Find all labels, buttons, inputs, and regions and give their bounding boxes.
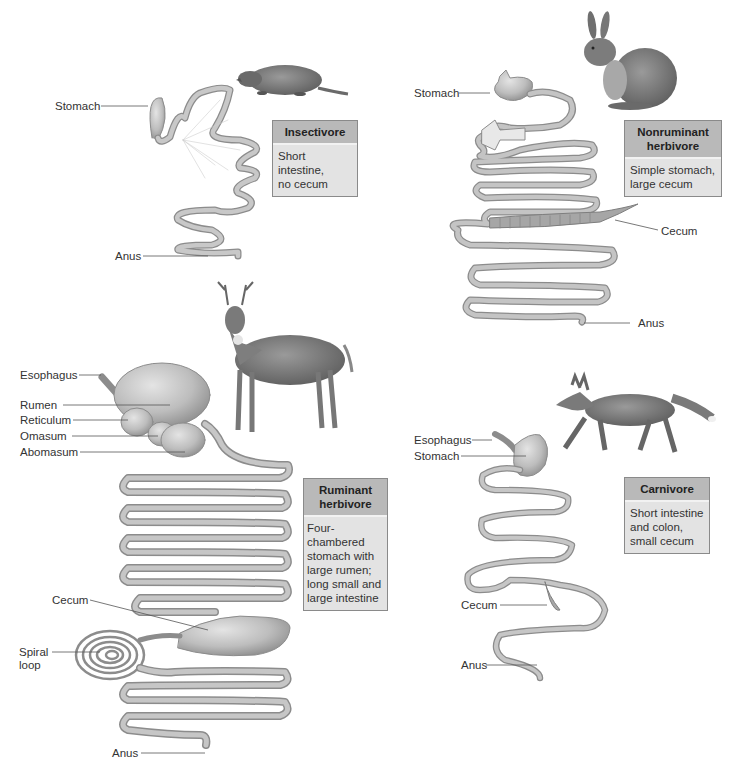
box-line: small cecum xyxy=(630,534,704,548)
label-stomach: Stomach xyxy=(55,100,100,113)
box-line: and colon, xyxy=(630,520,704,534)
box-title: Nonruminant herbivore xyxy=(625,121,721,159)
box-line: large rumen; xyxy=(307,563,385,577)
label-anus: Anus xyxy=(638,317,664,330)
label-anus: Anus xyxy=(115,250,141,263)
box-title: Carnivore xyxy=(625,478,709,502)
box-line: Short intestine xyxy=(630,506,704,520)
box-line: Four-chambered xyxy=(307,521,385,549)
label-cecum: Cecum xyxy=(661,225,697,238)
box-title: Ruminant herbivore xyxy=(304,479,387,517)
rabbit-illustration xyxy=(584,11,677,110)
box-description: Short intestine and colon, small cecum xyxy=(625,502,709,553)
box-line: large cecum xyxy=(630,177,716,191)
deer-illustration xyxy=(218,282,352,432)
label-reticulum: Reticulum xyxy=(20,414,71,427)
box-description: Simple stomach, large cecum xyxy=(625,159,721,196)
label-cecum: Cecum xyxy=(461,599,497,612)
label-stomach: Stomach xyxy=(414,450,459,463)
box-line: Short intestine, xyxy=(278,149,352,177)
label-rumen: Rumen xyxy=(20,399,57,412)
label-omasum: Omasum xyxy=(20,430,67,443)
box-description: Short intestine, no cecum xyxy=(273,145,357,196)
label-esophagus: Esophagus xyxy=(414,434,472,447)
box-description: Four-chambered stomach with large rumen;… xyxy=(304,517,387,610)
insectivore-info-box: Insectivore Short intestine, no cecum xyxy=(272,120,358,197)
box-line: stomach with xyxy=(307,549,385,563)
label-spiral-loop: Spiral loop xyxy=(19,646,48,672)
nonruminant-info-box: Nonruminant herbivore Simple stomach, la… xyxy=(624,120,722,197)
box-title-line: Nonruminant xyxy=(629,125,717,139)
fox-illustration xyxy=(556,376,716,452)
box-line: long small and xyxy=(307,577,385,591)
carnivore-gut xyxy=(468,434,606,678)
box-title-line: Ruminant xyxy=(308,483,383,497)
box-line: no cecum xyxy=(278,177,352,191)
label-abomasum: Abomasum xyxy=(20,446,78,459)
label-line: Spiral xyxy=(19,646,48,658)
nonruminant-gut xyxy=(453,70,638,322)
label-esophagus: Esophagus xyxy=(20,369,78,382)
label-anus: Anus xyxy=(461,659,487,672)
box-title-line: herbivore xyxy=(308,497,383,511)
carnivore-info-box: Carnivore Short intestine and colon, sma… xyxy=(624,477,710,554)
label-line: loop xyxy=(19,659,41,671)
box-line: large intestine xyxy=(307,591,385,605)
ruminant-info-box: Ruminant herbivore Four-chambered stomac… xyxy=(303,478,388,611)
box-title-line: herbivore xyxy=(629,139,717,153)
insectivore-gut xyxy=(150,88,257,256)
label-cecum: Cecum xyxy=(52,594,88,607)
shrew-illustration xyxy=(236,65,348,96)
box-title: Insectivore xyxy=(273,121,357,145)
box-line: Simple stomach, xyxy=(630,163,716,177)
leader-line xyxy=(615,220,658,230)
figure-artwork xyxy=(0,0,729,772)
label-anus: Anus xyxy=(112,747,138,760)
digestive-tract-comparison-figure: Stomach Anus Insectivore Short intestine… xyxy=(0,0,729,772)
label-stomach: Stomach xyxy=(414,87,459,100)
